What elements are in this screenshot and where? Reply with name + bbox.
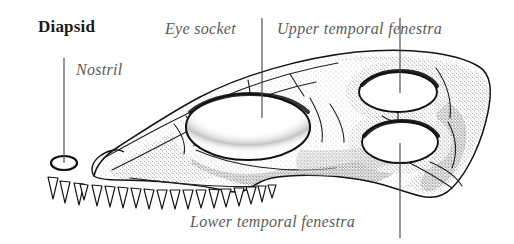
label-nostril: Nostril <box>76 62 123 78</box>
diapsid-skull-figure: Diapsid Eye socket Upper temporal fenest… <box>0 0 514 244</box>
label-lower-temporal-fenestra: Lower temporal fenestra <box>190 214 355 230</box>
eye-socket-opening <box>186 94 310 160</box>
label-upper-temporal-fenestra: Upper temporal fenestra <box>277 21 442 37</box>
label-eye-socket: Eye socket <box>165 21 236 37</box>
upper-temporal-fenestra-opening <box>359 71 437 112</box>
figure-title: Diapsid <box>38 18 95 35</box>
